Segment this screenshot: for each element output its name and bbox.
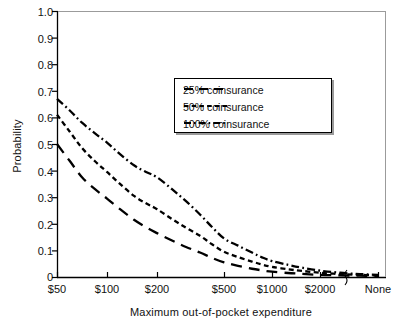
legend-swatch-short-dash bbox=[183, 100, 229, 112]
legend-swatch-long-dash bbox=[183, 83, 229, 95]
legend-item-25: 25% coinsurance bbox=[183, 83, 327, 97]
legend: 25% coinsurance 50% coinsurance 100% coi… bbox=[174, 78, 332, 133]
legend-item-50: 50% coinsurance bbox=[183, 100, 327, 114]
chart-figure: Probability 1.0 0.9 0.8 0.7 0.6 0.5 0.4 … bbox=[0, 0, 408, 328]
legend-item-100: 100% coinsurance bbox=[183, 117, 327, 131]
data-series-line bbox=[57, 144, 378, 276]
plot-area bbox=[0, 0, 408, 328]
legend-swatch-dash-dot bbox=[183, 117, 229, 129]
data-series-line bbox=[57, 115, 378, 276]
